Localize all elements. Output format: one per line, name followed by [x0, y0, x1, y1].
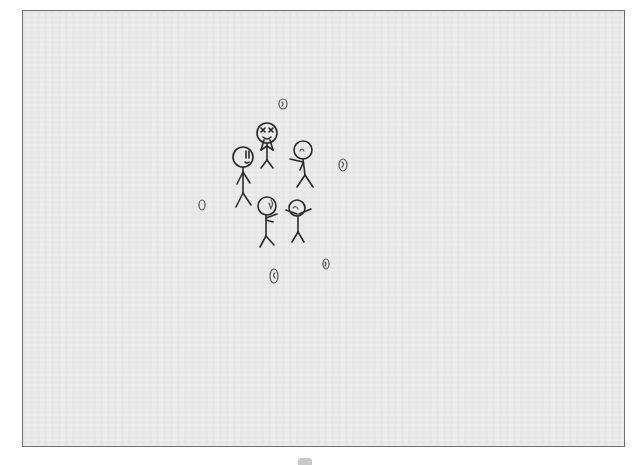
bottom-left-figure — [258, 197, 277, 247]
eggs — [199, 99, 347, 283]
x-eyes-figure — [257, 123, 277, 168]
scan-mark — [298, 458, 312, 465]
stick-figure-drawing — [0, 0, 636, 465]
bottom-right-figure — [286, 200, 311, 242]
canvas — [0, 0, 636, 465]
pointing-figure — [290, 141, 313, 187]
egg — [199, 200, 205, 210]
tall-figure — [233, 147, 253, 207]
